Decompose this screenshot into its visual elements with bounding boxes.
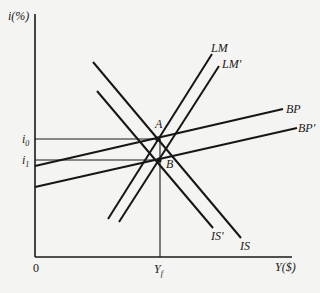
y-axis-label: i(%) [8,9,29,23]
point-b-label: B [166,157,174,171]
bp-label: BP [286,102,301,116]
i1-label: i1 [22,153,29,169]
lm-prime-label: LM' [221,57,242,71]
x-axis-label: Y($) [275,260,296,274]
point-a-label: A [154,117,163,131]
is-prime-label: IS' [210,229,224,243]
is-curve [93,62,241,238]
islm-bp-diagram: i(%) Y($) 0 i0 i1 Yf A B LM LM' BP BP' I… [0,0,320,293]
i0-label: i0 [22,132,29,148]
point-b-marker [156,157,161,162]
is-label: IS [239,239,250,253]
origin-label: 0 [33,261,39,275]
bp-prime-label: BP' [298,121,316,135]
lm-label: LM [210,41,229,55]
point-a-marker [155,136,160,141]
yf-label: Yf [154,262,165,278]
